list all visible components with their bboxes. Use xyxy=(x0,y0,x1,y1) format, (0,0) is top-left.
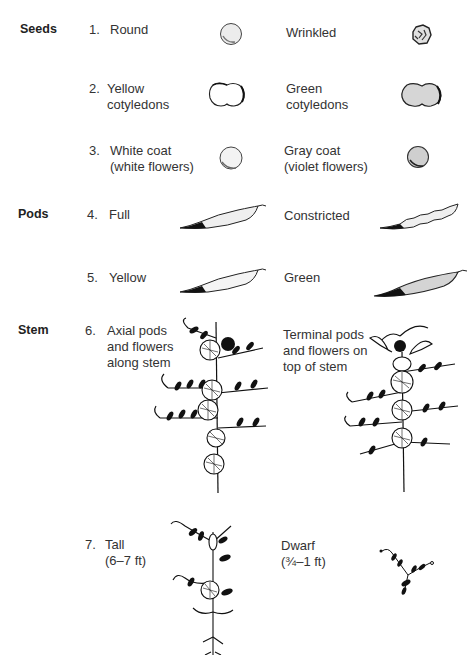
category-pods: Pods xyxy=(18,207,49,221)
category-seeds: Seeds xyxy=(20,22,57,36)
trait-number: 3. xyxy=(89,143,100,158)
full-pod-icon xyxy=(178,200,270,234)
axial-plant-icon xyxy=(148,318,273,493)
yellow-pod-icon xyxy=(178,264,270,298)
dominant-label: Full xyxy=(109,207,130,223)
wrinkled-seed-icon xyxy=(410,23,434,47)
recessive-label: Constricted xyxy=(284,208,350,224)
trait-number: 5. xyxy=(87,270,98,285)
recessive-label: Green cotyledons xyxy=(286,81,348,113)
recessive-label: Green xyxy=(284,270,320,286)
trait-number: 2. xyxy=(89,81,100,96)
terminal-plant-icon xyxy=(340,322,465,492)
trait-number: 7. xyxy=(85,537,96,552)
green-pod-icon xyxy=(372,266,468,300)
trait-number: 1. xyxy=(89,22,100,37)
tall-plant-icon xyxy=(165,512,240,655)
category-stem: Stem xyxy=(18,323,49,337)
dominant-label: Yellow xyxy=(109,270,146,286)
recessive-label: Wrinkled xyxy=(286,25,336,41)
dominant-label: Round xyxy=(110,22,148,38)
constricted-pod-icon xyxy=(378,200,464,234)
white-coat-seed-icon xyxy=(218,145,244,171)
dominant-label: Tall (6–7 ft) xyxy=(105,537,146,569)
trait-number: 4. xyxy=(87,207,98,222)
round-seed-icon xyxy=(219,22,243,46)
recessive-label: Dwarf (¾–1 ft) xyxy=(281,538,326,570)
recessive-label: Gray coat (violet flowers) xyxy=(284,143,368,175)
gray-coat-seed-icon xyxy=(406,145,430,169)
trait-number: 6. xyxy=(85,323,96,338)
dwarf-plant-icon xyxy=(378,545,436,601)
green-cotyledons-icon xyxy=(400,81,444,111)
dominant-label: White coat (white flowers) xyxy=(110,143,194,175)
dominant-label: Yellow cotyledons xyxy=(107,81,169,113)
yellow-cotyledons-icon xyxy=(207,80,247,110)
